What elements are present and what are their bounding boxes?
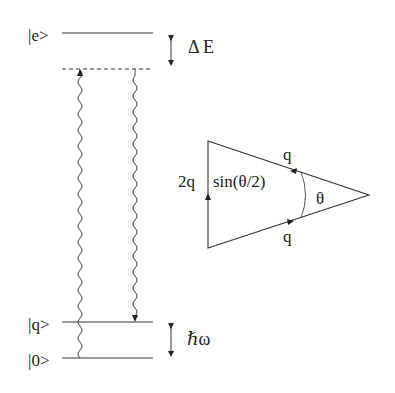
vertical-side-sin-label: sin(θ/2) [213, 172, 266, 191]
vertical-side-arrowhead [205, 193, 211, 200]
angle-arc [301, 172, 306, 218]
angle-label: θ [316, 189, 324, 208]
ground-level-label: |0> [28, 351, 50, 370]
raman-scattering-diagram: |e> |q> |0> Δ E ℏω 2q sin(θ/2) q q θ [0, 0, 395, 393]
incident-photon-wavy-line [78, 70, 82, 358]
bottom-side-label: q [283, 227, 292, 246]
vertical-side-label: 2q [178, 172, 196, 191]
excited-level-label: |e> [28, 26, 49, 45]
detuning-label: Δ E [188, 37, 214, 57]
phonon-energy-label: ℏω [187, 329, 211, 349]
top-side-label: q [283, 145, 292, 164]
scattered-photon-wavy-line [133, 69, 137, 316]
scattered-arrowhead [132, 315, 138, 322]
phonon-level-label: |q> [28, 315, 50, 334]
